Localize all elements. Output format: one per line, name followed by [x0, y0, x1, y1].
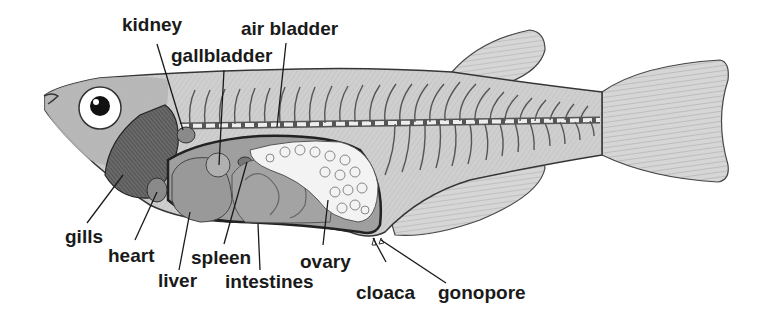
kidney [177, 127, 195, 143]
label-cloaca: cloaca [356, 283, 415, 302]
gallbladder [206, 153, 230, 177]
label-heart: heart [108, 246, 154, 265]
label-liver: liver [158, 271, 197, 290]
label-gills: gills [65, 227, 103, 246]
label-gonopore: gonopore [438, 283, 526, 302]
fish-illustration [0, 0, 765, 317]
label-spleen: spleen [191, 248, 251, 267]
label-air-bladder: air bladder [241, 19, 338, 38]
label-intestines: intestines [225, 272, 314, 291]
label-gallbladder: gallbladder [171, 46, 272, 65]
heart [147, 178, 167, 202]
label-kidney: kidney [122, 15, 182, 34]
label-ovary: ovary [300, 252, 351, 271]
fish-anatomy-diagram: kidney gallbladder air bladder gills hea… [0, 0, 765, 317]
